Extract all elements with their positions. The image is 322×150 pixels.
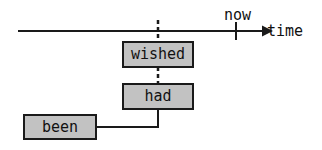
node-had-label: had	[144, 89, 171, 104]
diagram-canvas: now time wished had been	[0, 0, 322, 150]
time-axis-label: time	[267, 24, 303, 39]
node-wished[interactable]: wished	[122, 41, 194, 68]
node-wished-label: wished	[131, 47, 185, 62]
node-been-label: been	[42, 120, 78, 135]
now-label: now	[224, 8, 251, 23]
node-had[interactable]: had	[122, 83, 194, 110]
had-to-been-solid-connector	[96, 108, 158, 127]
node-been[interactable]: been	[23, 114, 97, 140]
